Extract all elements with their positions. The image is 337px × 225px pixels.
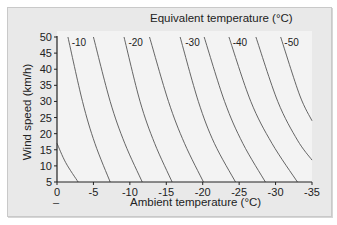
chart-title: Equivalent temperature (°C)	[150, 12, 293, 24]
chart-plot: 51015202530354045500-5-10-15-20-25-30-35…	[0, 0, 337, 225]
y-axis-label: Wind speed (km/h)	[21, 64, 33, 161]
y-tick-label: 45	[40, 47, 52, 59]
y-tick-label: 30	[40, 95, 52, 107]
dash-mark: –	[53, 196, 59, 208]
curve-label: -20	[128, 37, 143, 48]
x-tick-label: -35	[304, 186, 320, 198]
curve-label: -40	[233, 37, 248, 48]
curve-label: -50	[284, 37, 299, 48]
y-tick-label: 15	[40, 144, 52, 156]
y-tick-label: 25	[40, 112, 52, 124]
x-axis-label: Ambient temperature (°C)	[130, 196, 261, 208]
curve-label: -30	[185, 37, 200, 48]
x-tick-label: -30	[268, 186, 284, 198]
curve-label: -10	[72, 37, 87, 48]
x-tick-label: -5	[89, 186, 99, 198]
y-tick-label: 5	[46, 176, 52, 188]
y-tick-label: 10	[40, 160, 52, 172]
y-tick-label: 50	[40, 31, 52, 43]
y-tick-label: 20	[40, 128, 52, 140]
y-tick-label: 35	[40, 79, 52, 91]
y-tick-label: 40	[40, 63, 52, 75]
